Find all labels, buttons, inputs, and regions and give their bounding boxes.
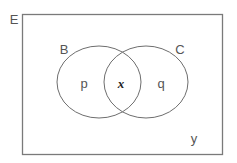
set-c-label: C [175, 43, 184, 56]
set-b-label: B [60, 43, 69, 56]
set-b-circle [57, 46, 141, 118]
universal-set-label: E [10, 13, 19, 26]
set-c-circle [104, 46, 188, 118]
region-intersection-label: x [118, 77, 125, 90]
region-b-only-label: p [80, 77, 87, 90]
region-outside-label: y [191, 132, 198, 145]
region-c-only-label: q [157, 77, 164, 90]
